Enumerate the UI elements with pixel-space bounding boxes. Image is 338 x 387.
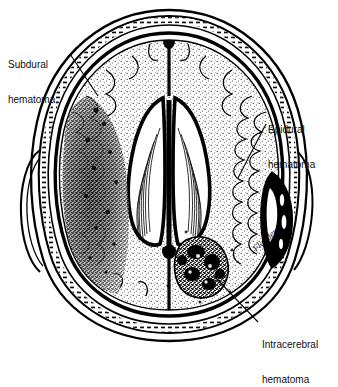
label-epidural-line1: Epidural (268, 124, 315, 136)
label-subdural-line2: hematoma (8, 94, 55, 106)
label-subdural-line1: Subdural (8, 59, 55, 71)
lateral-ventricles (128, 98, 209, 259)
label-epidural-line2: hematoma (268, 159, 315, 171)
label-intracerebral-line1: Intracerebral (262, 339, 318, 351)
label-intracerebral-line2: hematoma (262, 374, 318, 386)
label-intracerebral-hematoma: Intracerebral hematoma (262, 316, 318, 387)
label-epidural-hematoma: Epidural hematoma (268, 101, 315, 193)
label-subdural-hematoma: Subdural hematoma (8, 36, 55, 128)
